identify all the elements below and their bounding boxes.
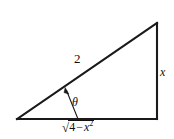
radical-expression: √4−x2 bbox=[62, 120, 94, 134]
radicand: 4−x2 bbox=[68, 120, 94, 133]
hypotenuse-length-label: 2 bbox=[74, 52, 81, 65]
triangle-drawing bbox=[0, 0, 174, 139]
angle-theta-label: θ bbox=[72, 96, 78, 108]
radicand-minus-operator: − bbox=[75, 120, 84, 134]
radicand-exponent: 2 bbox=[89, 119, 93, 128]
opposite-side-length-label: x bbox=[160, 66, 165, 78]
base-length-label: √4−x2 bbox=[62, 120, 94, 134]
triangle-hypotenuse-line bbox=[17, 23, 157, 119]
triangle-figure: 2 x θ √4−x2 bbox=[0, 0, 174, 139]
angle-arrow-head bbox=[64, 88, 69, 95]
